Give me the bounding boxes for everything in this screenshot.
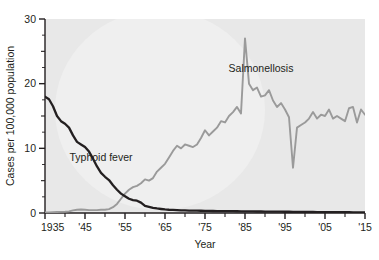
y-axis-tick-label: 20 [24, 77, 36, 89]
x-axis-title: Year [194, 238, 216, 250]
x-axis-tick-label: '85 [238, 221, 252, 233]
y-axis-tick-label: 10 [24, 142, 36, 154]
x-axis-tick-label: 1935 [41, 221, 65, 233]
x-axis-tick-label: '95 [278, 221, 292, 233]
series-annotation-typhoid: Typhoid fever [69, 151, 133, 163]
y-axis-tick-label: 0 [30, 207, 36, 219]
x-axis-tick-label: '15 [358, 221, 372, 233]
disease-incidence-line-chart: 0102030 1935'45'55'65'75'85'95'05'15 Typ… [0, 0, 379, 260]
series-annotation-salmonellosis: Salmonellosis [229, 62, 294, 74]
x-axis-tick-label: '75 [198, 221, 212, 233]
x-axis-tick-label: '05 [318, 221, 332, 233]
x-axis-tick-labels: 1935'45'55'65'75'85'95'05'15 [41, 221, 372, 233]
x-axis-tick-label: '65 [158, 221, 172, 233]
y-axis-tick-label: 30 [24, 13, 36, 25]
y-axis-title: Cases per 100,000 population [4, 46, 16, 186]
x-axis-tick-label: '45 [78, 221, 92, 233]
chart-figure: 0102030 1935'45'55'65'75'85'95'05'15 Typ… [0, 0, 379, 260]
x-axis-tick-label: '55 [118, 221, 132, 233]
